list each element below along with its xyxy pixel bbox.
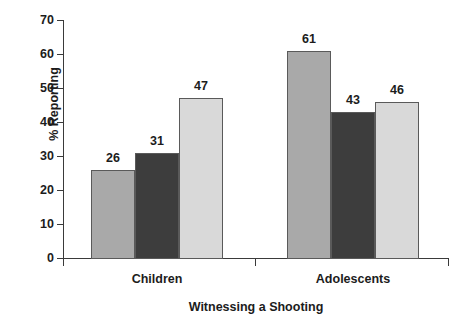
x-axis-category-label: Adolescents [267, 272, 439, 286]
bar-value-label: 31 [135, 135, 179, 148]
x-axis-title: Witnessing a Shooting [63, 300, 449, 314]
bar [331, 112, 375, 259]
bar-value-label: 26 [91, 152, 135, 165]
y-axis-tick-label: 40 [14, 116, 54, 129]
bar-chart-figure: % Reporting 010203040506070 263147614346… [0, 0, 470, 325]
bar [287, 51, 331, 259]
y-axis-tick-label: 50 [14, 82, 54, 95]
y-axis-title: % Reporting [47, 49, 63, 159]
y-axis-tick-label: 60 [14, 48, 54, 61]
y-axis-tick-label: 70 [14, 14, 54, 27]
x-axis-tick-mark [63, 259, 64, 266]
bar [375, 102, 419, 259]
y-axis-line [63, 20, 64, 259]
bar-value-label: 46 [375, 84, 419, 97]
bar-value-label: 61 [287, 33, 331, 46]
bar [179, 98, 223, 259]
bar [91, 170, 135, 259]
bar-value-label: 47 [179, 80, 223, 93]
y-axis-tick-label: 20 [14, 184, 54, 197]
x-axis-tick-mark [448, 259, 449, 266]
bar [135, 153, 179, 259]
x-axis-category-label: Children [71, 272, 243, 286]
y-axis-tick-label: 10 [14, 218, 54, 231]
x-axis-tick-mark [255, 259, 256, 266]
bar-value-label: 43 [331, 94, 375, 107]
y-axis-tick-label: 30 [14, 150, 54, 163]
y-axis-tick-label: 0 [14, 252, 54, 265]
